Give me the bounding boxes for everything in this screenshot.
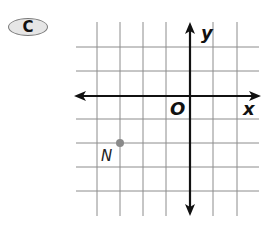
x-axis-label: x [243, 100, 255, 118]
grid-lines [76, 22, 259, 216]
origin-label: O [170, 100, 185, 118]
x-axis [74, 91, 261, 101]
coordinate-plane [0, 0, 269, 227]
point-n-marker [116, 139, 124, 147]
point-n-label: N [101, 149, 112, 164]
y-axis-label: y [201, 24, 213, 42]
